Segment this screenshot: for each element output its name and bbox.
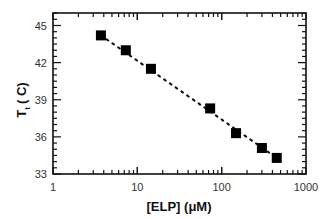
x-tick-label: 10 xyxy=(131,181,143,193)
y-tick-label: 36 xyxy=(35,131,47,143)
x-tick-label: 1 xyxy=(50,181,56,193)
y-axis-label-sub: t xyxy=(23,107,32,110)
y-tick-label: 39 xyxy=(35,94,47,106)
y-tick-label: 45 xyxy=(35,20,47,32)
data-point-square xyxy=(272,153,282,163)
x-tick-label: 100 xyxy=(212,181,230,193)
data-point-square xyxy=(96,30,106,40)
y-axis-label: Tt( C) xyxy=(14,82,32,117)
data-point-square xyxy=(257,143,267,153)
y-tick-label: 42 xyxy=(35,57,47,69)
plot-frame xyxy=(53,13,306,174)
x-axis-tick-labels: 1101001000 xyxy=(50,181,318,193)
y-axis-label-unit: ( C) xyxy=(14,82,29,104)
data-point-square xyxy=(146,64,156,74)
y-axis-label-main: T xyxy=(14,110,29,118)
chart: 1101001000 3336394245 [ELP] (μM) Tt( C) xyxy=(0,0,327,219)
data-point-square xyxy=(231,128,241,138)
x-tick-label: 1000 xyxy=(294,181,318,193)
data-point-square xyxy=(205,103,215,113)
svg-text:Tt( C): Tt( C) xyxy=(14,82,32,117)
x-axis-label: [ELP] (μM) xyxy=(147,199,212,214)
data-point-square xyxy=(121,45,131,55)
y-axis-tick-labels: 3336394245 xyxy=(35,20,47,181)
y-tick-label: 33 xyxy=(35,168,47,180)
y-axis-ticks xyxy=(53,13,306,174)
x-axis-ticks xyxy=(53,13,306,174)
